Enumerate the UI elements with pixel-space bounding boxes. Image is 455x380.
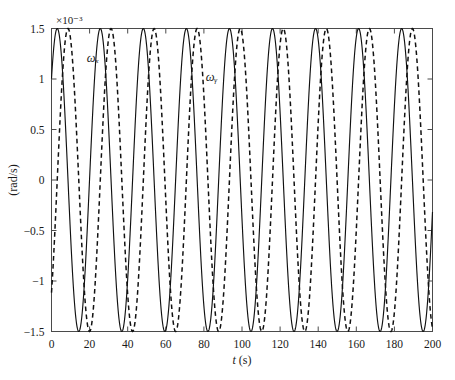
y-tick-label: −1.5 <box>24 326 45 338</box>
y-tick-label: −1 <box>32 275 44 287</box>
x-tick-label: 200 <box>424 338 442 350</box>
chart-canvas: 020406080100120140160180200 1.510.50−0.5… <box>0 0 455 380</box>
figure-container: 020406080100120140160180200 1.510.50−0.5… <box>0 0 455 380</box>
x-axis-title: t (s) <box>232 353 251 367</box>
y-tick-label: 0.5 <box>30 124 45 136</box>
series-annotation-omega-x: ωₓ <box>87 51 99 65</box>
x-tick-label: 180 <box>386 338 404 350</box>
y-axis-title: (rad/s) <box>6 164 20 195</box>
x-tick-label: 160 <box>348 338 366 350</box>
x-tick-label: 40 <box>122 338 134 350</box>
x-tick-label: 60 <box>160 338 172 350</box>
y-tick-label: 1.5 <box>30 23 45 35</box>
y-tick-label: −0.5 <box>24 225 45 237</box>
x-tick-label: 0 <box>49 338 55 350</box>
series-annotation-omega-y: ωᵧ <box>206 70 218 84</box>
y-axis-exponent-label: ×10⁻³ <box>56 14 83 26</box>
axes-frame <box>52 29 433 332</box>
x-tick-label: 80 <box>198 338 210 350</box>
x-tick-label: 20 <box>84 338 96 350</box>
x-tick-label: 140 <box>310 338 328 350</box>
x-tick-label: 100 <box>233 338 251 350</box>
x-tick-label: 120 <box>271 338 289 350</box>
y-tick-label: 1 <box>39 73 45 85</box>
y-tick-label: 0 <box>39 174 45 186</box>
